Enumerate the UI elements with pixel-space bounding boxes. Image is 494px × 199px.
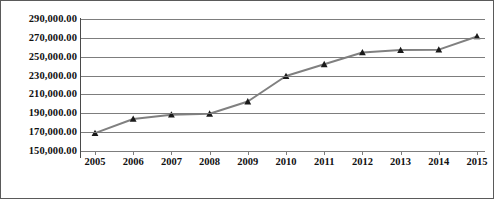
x-axis-tick-mark xyxy=(324,151,325,155)
line-chart: 290,000.00270,000.00250,000.00230,000.00… xyxy=(0,0,494,199)
x-axis-tick-label: 2015 xyxy=(467,157,488,168)
y-axis-tick-labels: 290,000.00270,000.00250,000.00230,000.00… xyxy=(1,1,77,199)
x-axis-tick-mark xyxy=(286,151,287,155)
x-axis-tick-label: 2008 xyxy=(199,157,220,168)
gridline xyxy=(81,132,485,133)
gridline xyxy=(81,151,485,152)
x-axis-tick-mark xyxy=(248,151,249,155)
x-axis-tick-label: 2012 xyxy=(352,157,373,168)
y-axis-tick-label: 150,000.00 xyxy=(1,146,77,157)
x-axis-tick-mark xyxy=(210,151,211,155)
x-axis-tick-mark xyxy=(133,151,134,155)
x-axis-tick-mark xyxy=(439,151,440,155)
gridline xyxy=(81,94,485,95)
gridline xyxy=(81,76,485,77)
x-axis-tick-mark xyxy=(362,151,363,155)
gridline xyxy=(81,57,485,58)
x-axis-tick-mark xyxy=(95,151,96,155)
y-axis-tick-label: 210,000.00 xyxy=(1,89,77,100)
y-axis-tick-label: 270,000.00 xyxy=(1,33,77,44)
y-axis-tick-label: 170,000.00 xyxy=(1,127,77,138)
x-axis-tick-label: 2013 xyxy=(390,157,411,168)
x-axis-tick-label: 2005 xyxy=(85,157,106,168)
series-line xyxy=(95,36,477,133)
x-axis-tick-label: 2014 xyxy=(428,157,449,168)
gridline xyxy=(81,113,485,114)
gridline xyxy=(81,38,485,39)
plot-area xyxy=(81,19,485,151)
x-axis-tick-mark xyxy=(401,151,402,155)
x-axis-tick-label: 2006 xyxy=(123,157,144,168)
x-axis-tick-mark xyxy=(171,151,172,155)
x-axis-tick-labels: 2005200620072008200920102011201220132014… xyxy=(81,157,485,187)
x-axis-tick-label: 2011 xyxy=(314,157,334,168)
y-axis-tick-label: 250,000.00 xyxy=(1,51,77,62)
y-axis-tick-label: 230,000.00 xyxy=(1,70,77,81)
x-axis-tick-mark xyxy=(477,151,478,155)
gridline xyxy=(81,19,485,20)
x-axis-tick-label: 2009 xyxy=(237,157,258,168)
x-axis-tick-label: 2010 xyxy=(276,157,297,168)
y-axis-tick-label: 290,000.00 xyxy=(1,14,77,25)
y-axis-tick-label: 190,000.00 xyxy=(1,108,77,119)
x-axis-tick-label: 2007 xyxy=(161,157,182,168)
